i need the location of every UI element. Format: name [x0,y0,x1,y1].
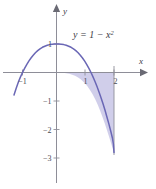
y-axis-arrow-icon [53,4,60,12]
y-tick-label-neg2: −2 [43,126,52,135]
y-tick-label-neg1: −1 [43,97,52,106]
parabola-curve-path [14,44,95,95]
function-equation-base: y = 1 − x [72,29,111,40]
x-tick-label-2: 2 [114,77,118,86]
graph-figure: y x −1 1 2 1 −1 −2 −3 y = 1 − x2 [0,0,156,189]
x-tick-label-neg1: −1 [18,77,27,86]
plot-canvas: y x −1 1 2 1 −1 −2 −3 y = 1 − x2 [0,0,156,189]
function-equation-label: y = 1 − x2 [72,29,114,41]
function-equation-exponent: 2 [110,29,114,36]
x-axis-arrow-icon [140,69,148,76]
y-tick-label-1: 1 [48,40,52,49]
parabola-curve [14,44,50,96]
x-axis-label: x [138,56,143,66]
y-axis-label: y [62,6,67,16]
y-tick-label-neg3: −3 [43,154,52,163]
x-tick-label-1: 1 [84,77,88,86]
